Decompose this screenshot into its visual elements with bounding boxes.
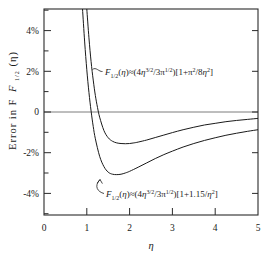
upper-curve-annotation: F1/2(η)≈(4η3/2/3π1/2)[1+π2/8η2] — [104, 67, 213, 79]
x-tick-label: 0 — [42, 223, 47, 233]
y-axis-title-text: Error in F — [7, 99, 18, 150]
x-tick-label: 2 — [127, 223, 132, 233]
y-tick-label: 0 — [34, 107, 39, 117]
error-plot-chart: 4% 2% 0 -2% -4% 0 1 2 3 4 5 η Error in F… — [0, 0, 269, 266]
x-tick-label: 4 — [213, 223, 218, 233]
y-axis-title-sub: 1/2 — [14, 70, 20, 81]
y-axis-title-arg: (η) — [7, 51, 19, 66]
y-tick-label: -4% — [23, 189, 39, 199]
y-tick-label: 4% — [26, 26, 39, 36]
x-tick-label: 1 — [84, 223, 89, 233]
y-tick-label: -2% — [23, 148, 39, 158]
chart-background — [0, 0, 269, 266]
x-tick-label: 5 — [256, 223, 261, 233]
x-tick-label: 3 — [170, 223, 175, 233]
lower-curve-annotation: F1/2(η)≈(4η3/2/3π1/2)[1+1.15/η2] — [105, 189, 218, 201]
x-axis-title: η — [148, 240, 153, 251]
y-tick-label: 2% — [26, 67, 39, 77]
figure-container: 4% 2% 0 -2% -4% 0 1 2 3 4 5 η Error in F… — [0, 0, 269, 266]
